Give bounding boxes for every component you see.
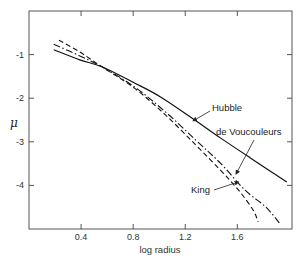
x-tick-label: 1.6 xyxy=(231,232,244,242)
label-de-vaucouleurs: de Voucouleurs xyxy=(216,126,282,137)
annotation-arrow xyxy=(214,182,239,190)
label-hubble: Hubble xyxy=(212,102,242,113)
y-tick-label: -2 xyxy=(16,93,24,103)
x-tick-label: 0.4 xyxy=(75,232,88,242)
x-axis-label: log radius xyxy=(139,244,180,255)
annotations xyxy=(193,111,254,190)
annotation-arrow xyxy=(236,140,254,174)
y-tick-label: -4 xyxy=(16,180,24,190)
chart: 0.40.81.21.6-1-2-3-4 μ log radius Hubble… xyxy=(0,0,303,261)
x-tick-label: 1.2 xyxy=(179,232,192,242)
annotation-arrow xyxy=(193,111,210,121)
label-king: King xyxy=(191,184,210,195)
y-axis-label: μ xyxy=(10,116,18,130)
y-tick-label: -1 xyxy=(16,50,24,60)
y-tick-label: -3 xyxy=(16,137,24,147)
x-tick-label: 0.8 xyxy=(127,232,140,242)
